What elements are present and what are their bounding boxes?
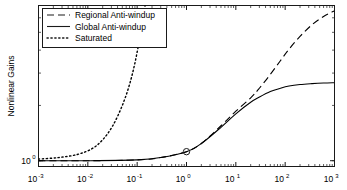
y-tick-label: 10 [21, 156, 31, 166]
x-tick-exponent: 0 [187, 173, 191, 179]
y-axis-tick-labels: 100 [21, 154, 36, 166]
x-tick-label: 10 [274, 174, 284, 184]
x-tick-exponent: -3 [38, 173, 44, 179]
legend-label: Saturated [75, 33, 112, 43]
chart-canvas: 10-310-210-1100101102103 100 Nonlinear G… [0, 0, 347, 190]
figure-container: 10-310-210-1100101102103 100 Nonlinear G… [0, 0, 347, 190]
x-tick-label: 10 [77, 174, 87, 184]
x-axis-tick-labels: 10-310-210-1100101102103 [28, 173, 340, 185]
x-tick-label: 10 [225, 174, 235, 184]
legend-label: Global Anti-windup [75, 22, 146, 32]
x-tick-exponent: 3 [335, 173, 339, 179]
y-tick-exponent: 0 [32, 154, 36, 160]
x-tick-exponent: 2 [286, 173, 290, 179]
x-tick-label: 10 [28, 174, 38, 184]
legend-label: Regional Anti-windup [75, 10, 155, 20]
x-tick-exponent: 1 [237, 173, 241, 179]
x-tick-exponent: -1 [137, 173, 143, 179]
x-tick-label: 10 [324, 174, 334, 184]
x-tick-exponent: -2 [88, 173, 94, 179]
x-tick-label: 10 [126, 174, 136, 184]
x-tick-label: 10 [176, 174, 186, 184]
legend: Regional Anti-windupGlobal Anti-windupSa… [43, 9, 167, 48]
y-axis-label: Nonlinear Gains [6, 56, 16, 117]
